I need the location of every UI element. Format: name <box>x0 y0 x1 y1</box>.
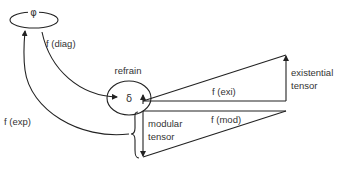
modular-tensor-line2: tensor <box>148 131 174 142</box>
existential-tensor-line1: existential <box>291 67 333 78</box>
refrain-symbol: δ <box>126 93 132 104</box>
existential-tensor-line2: tensor <box>291 80 317 91</box>
diagram-canvas: φ f (diag) refrain δ f (exi) existential… <box>0 0 347 169</box>
exp-arrow <box>24 31 129 135</box>
refrain-label: refrain <box>115 65 142 76</box>
modular-tensor-line1: modular <box>148 118 182 129</box>
phi-symbol: φ <box>30 7 37 18</box>
mod-label: f (mod) <box>211 114 241 125</box>
diag-label: f (diag) <box>46 38 76 49</box>
exp-label: f (exp) <box>4 116 31 127</box>
phi-node: φ <box>10 7 58 28</box>
exi-label: f (exi) <box>212 86 236 97</box>
modular-brace <box>131 112 139 158</box>
refrain-node: refrain δ <box>107 65 151 115</box>
